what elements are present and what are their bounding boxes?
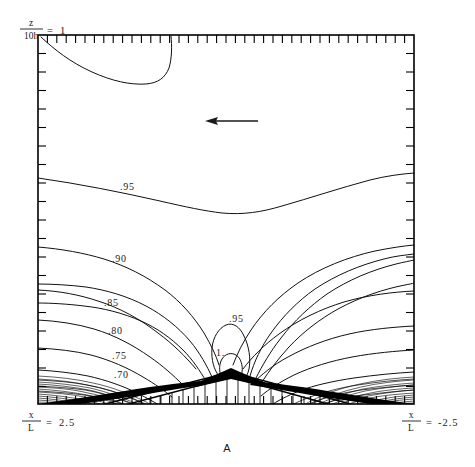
axis-frame <box>38 35 414 404</box>
axis-label-bottom-right: x L = -2.5 <box>402 410 459 433</box>
flow-direction-arrow <box>205 117 258 125</box>
axis-label-top-left-numerator: z <box>29 18 33 28</box>
axis-label-bottom-left-equals: = <box>46 417 53 428</box>
axis-label-top-left: z 10h = 1 <box>20 18 66 41</box>
contour-label-95-upper: .95 <box>120 181 135 192</box>
figure-caption: A <box>223 442 231 454</box>
axis-label-bottom-left-denominator: L <box>28 423 34 433</box>
axis-ticks-right <box>406 54 414 387</box>
axis-label-bottom-right-numerator: x <box>409 410 414 420</box>
contour-label-80: .80 <box>108 325 123 336</box>
axis-label-bottom-left: x L = 2.5 <box>22 410 75 433</box>
axis-label-bottom-right-equals: = <box>426 417 433 428</box>
contour-label-85: .85 <box>104 297 119 308</box>
axis-label-bottom-right-denominator: L <box>408 423 414 433</box>
axis-label-bottom-left-value: 2.5 <box>59 417 75 428</box>
contour-label-90: .90 <box>112 253 127 264</box>
plot-area <box>38 36 414 455</box>
contour-label-100-peak: 1. <box>216 347 225 358</box>
contour-top-left-u <box>41 36 172 84</box>
contour-sweep-right-upper-3 <box>250 254 414 376</box>
axis-label-top-left-value: 1 <box>60 25 66 36</box>
axis-label-top-left-denominator: 10h <box>24 31 39 41</box>
contour-sweep-left-upper-1 <box>38 284 212 377</box>
axis-label-bottom-left-numerator: x <box>29 410 34 420</box>
contour-plot-svg: .95 .90 .85 .80 .75 .70 .95 1. z 10h = 1… <box>0 0 475 467</box>
contour-level-90 <box>38 245 414 365</box>
contour-level-95-upper <box>38 173 414 214</box>
axis-label-bottom-right-value: -2.5 <box>438 417 459 428</box>
axis-ticks-left <box>38 54 46 387</box>
figure-container: .95 .90 .85 .80 .75 .70 .95 1. z 10h = 1… <box>0 0 475 467</box>
axis-label-top-left-equals: = <box>47 25 54 36</box>
contour-label-95-peak: .95 <box>229 313 244 324</box>
contour-label-75: .75 <box>112 350 127 361</box>
axis-ticks-top <box>47 35 404 43</box>
contour-label-70: .70 <box>114 369 129 380</box>
